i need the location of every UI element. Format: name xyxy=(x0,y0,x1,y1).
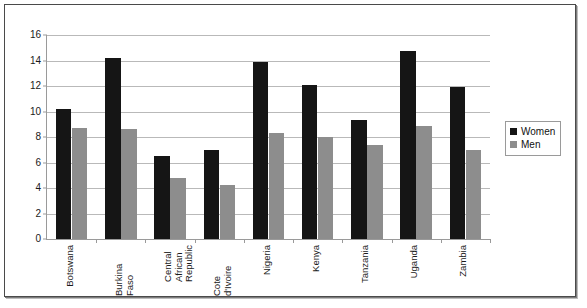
bar-men[interactable] xyxy=(121,129,137,239)
bar-men[interactable] xyxy=(269,133,285,239)
bar-women[interactable] xyxy=(302,85,318,239)
chart-legend: WomenMen xyxy=(505,121,561,156)
gridline-0 xyxy=(47,239,490,240)
bar-group xyxy=(293,35,342,239)
x-axis-label-kenya: Kenya xyxy=(311,245,322,272)
x-tick-mark xyxy=(342,239,343,243)
y-tick-label-16: 16 xyxy=(30,30,41,40)
bar-men[interactable] xyxy=(220,185,236,239)
bar-group xyxy=(244,35,293,239)
bar-women[interactable] xyxy=(400,51,416,239)
x-axis-label-central-african-republic: Central African Republic xyxy=(163,245,195,282)
y-tick-label-12: 12 xyxy=(30,81,41,91)
y-tick-label-8: 8 xyxy=(35,132,41,142)
bar-men[interactable] xyxy=(170,178,186,239)
bar-women[interactable] xyxy=(253,62,269,239)
y-tick-label-4: 4 xyxy=(35,183,41,193)
bar-women[interactable] xyxy=(204,150,220,239)
bar-group xyxy=(392,35,441,239)
bar-group xyxy=(47,35,96,239)
bar-group xyxy=(195,35,244,239)
x-tick-mark xyxy=(96,239,97,243)
x-tick-mark xyxy=(293,239,294,243)
bar-group xyxy=(145,35,194,239)
x-tick-mark xyxy=(392,239,393,243)
plot-area: 0246810121416 xyxy=(46,35,490,240)
bar-men[interactable] xyxy=(367,145,383,239)
legend-label: Women xyxy=(521,127,555,137)
x-axis-label-burkina-faso: Burkina Faso xyxy=(114,245,135,296)
x-axis-label-botswana: Botswana xyxy=(65,245,76,287)
bar-men[interactable] xyxy=(72,128,88,239)
x-axis-label-zambia: Zambia xyxy=(458,245,469,277)
x-tick-mark xyxy=(145,239,146,243)
x-axis-label-nigeria: Nigeria xyxy=(262,245,273,275)
y-tick-label-14: 14 xyxy=(30,56,41,66)
y-tick-label-10: 10 xyxy=(30,107,41,117)
bar-group xyxy=(441,35,490,239)
y-tick-label-6: 6 xyxy=(35,158,41,168)
y-tick-label-2: 2 xyxy=(35,209,41,219)
x-tick-mark xyxy=(195,239,196,243)
x-axis-label-cote-d-ivoire: Cote d'Ivoire xyxy=(212,245,233,296)
bar-group xyxy=(342,35,391,239)
x-tick-mark xyxy=(244,239,245,243)
y-tick-label-0: 0 xyxy=(35,234,41,244)
x-tick-mark xyxy=(490,239,491,243)
bar-group xyxy=(96,35,145,239)
legend-label: Men xyxy=(521,140,540,150)
bar-men[interactable] xyxy=(318,137,334,239)
legend-item-men[interactable]: Men xyxy=(510,138,555,151)
bar-women[interactable] xyxy=(154,156,170,239)
bar-women[interactable] xyxy=(450,87,466,239)
bar-women[interactable] xyxy=(351,120,367,239)
bar-women[interactable] xyxy=(105,58,121,239)
bar-women[interactable] xyxy=(56,109,72,239)
chart-frame: 0246810121416 BotswanaBurkina FasoCentra… xyxy=(4,4,576,297)
bar-men[interactable] xyxy=(466,150,482,239)
legend-swatch-icon-women xyxy=(510,128,517,135)
legend-item-women[interactable]: Women xyxy=(510,125,555,138)
x-axis-label-tanzania: Tanzania xyxy=(360,245,371,283)
bar-men[interactable] xyxy=(416,126,432,239)
x-tick-mark xyxy=(441,239,442,243)
x-axis-label-uganda: Uganda xyxy=(409,245,420,278)
legend-swatch-icon-men xyxy=(510,141,517,148)
